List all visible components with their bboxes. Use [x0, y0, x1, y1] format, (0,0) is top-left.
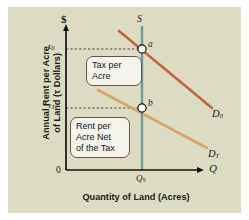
demand-after-tax-label-base: D: [208, 148, 216, 159]
x-axis-symbol: Q: [209, 163, 217, 175]
demand-after-tax-label-sub: T: [216, 152, 220, 159]
y-tick-tau-T: τT: [48, 101, 55, 111]
rent-net-of-tax-callout-line3: of the Tax: [76, 143, 124, 154]
demand-before-tax-label-base: D: [212, 108, 220, 119]
supply-curve-label: S: [137, 14, 142, 25]
point-a-label: a: [148, 40, 153, 50]
x-tick-Q-S-sub: S: [143, 176, 146, 183]
x-axis-arrowhead: [197, 167, 204, 173]
point-b-marker: [138, 104, 146, 112]
tax-per-acre-callout: Tax per Acre: [86, 56, 142, 86]
tax-per-acre-callout-line2: Acre: [92, 71, 136, 82]
x-tick-Q-S: QS: [136, 174, 146, 184]
land-tax-diagram: Annual Rent per Acre of Land (τ Dollars)…: [0, 0, 249, 220]
rent-net-of-tax-callout-line1: Rent per: [76, 121, 124, 132]
demand-after-tax-label: DT: [208, 148, 219, 160]
point-a-marker: [138, 45, 146, 53]
point-b-label: b: [148, 99, 153, 109]
rent-net-of-tax-callout-line2: Acre Net: [76, 132, 124, 143]
x-axis-title: Quantity of Land (Acres): [46, 192, 226, 202]
origin-label: 0: [56, 166, 61, 176]
demand-before-tax-label: D0: [212, 108, 223, 120]
y-tick-tau-T-sub: T: [51, 103, 55, 110]
y-tick-tau-0-sub: 0: [51, 44, 54, 51]
y-tick-tau-0: τ0: [48, 42, 54, 52]
tax-per-acre-callout-line1: Tax per: [92, 60, 136, 71]
rent-net-of-tax-callout: Rent per Acre Net of the Tax: [70, 117, 130, 158]
y-axis-currency-symbol: $: [61, 14, 67, 26]
y-axis-title: Annual Rent per Acre of Land (τ Dollars): [14, 22, 40, 172]
demand-before-tax-label-sub: 0: [220, 112, 223, 119]
